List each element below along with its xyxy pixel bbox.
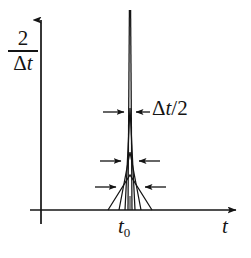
delta-t-half-annotation: Δt/2 [152,98,188,119]
y-axis-label-denominator: Δt [6,52,40,74]
axes-group [30,20,236,224]
figure-container: 2 Δt Δt/2 t0 t [0,0,251,258]
pulse-narrowest [128,10,129,210]
y-axis-label-delta: Δ [13,51,27,75]
delta-t-half-rest: /2 [171,96,187,120]
pulse-narrow [125,108,135,210]
y-axis-label-numerator: 2 [6,28,40,50]
delta-t-half-delta: Δ [152,96,166,120]
y-axis-label: 2 Δt [6,28,40,74]
t0-tick-label: t0 [118,216,130,239]
x-axis-label: t [222,216,228,237]
pulse-narrowest-right [131,10,132,210]
t0-subscript: 0 [124,225,131,240]
y-axis-label-variable: t [27,51,33,75]
pulse-family-group [108,10,152,210]
